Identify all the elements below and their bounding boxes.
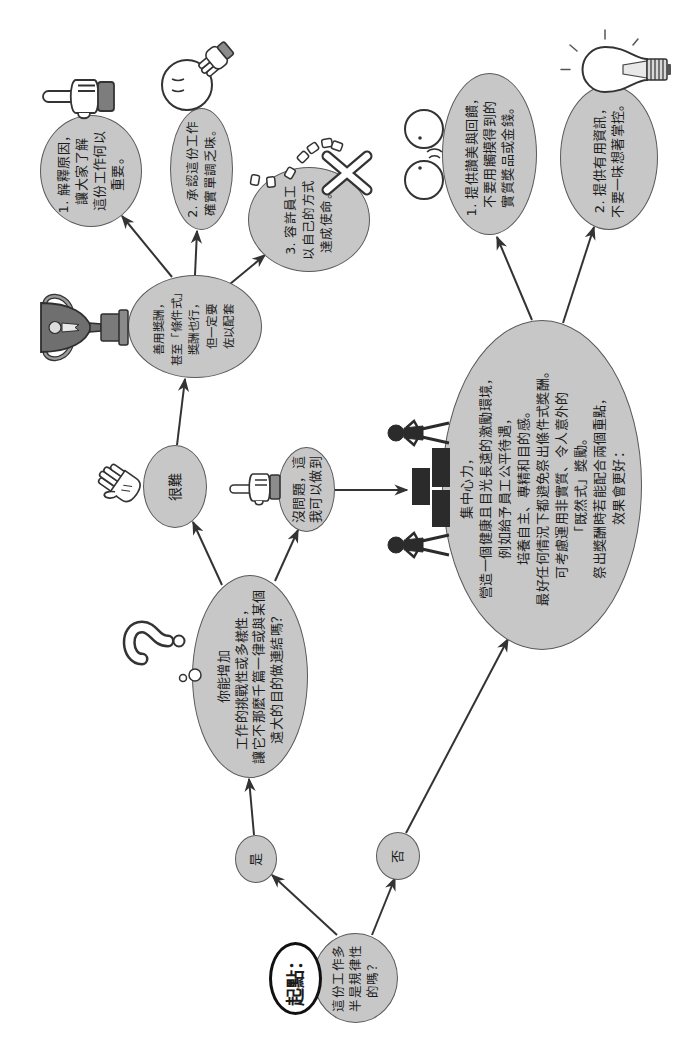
- start-badge: 起點：: [269, 942, 322, 1015]
- pointing-hand-icon: [227, 463, 283, 512]
- text-line: 這份工作多: [330, 945, 347, 1012]
- tip-information-text: 2. 提供有用資訊， 不要一味想著掌控。: [591, 97, 627, 218]
- answer-hard-node: 很難: [143, 445, 207, 528]
- text-line: 這份工作何以: [91, 131, 109, 211]
- text-line: 你能增加: [215, 650, 233, 704]
- answer-can-do-node: 沒問題，這 我可以做到: [278, 447, 335, 532]
- arrow-hard-to-rewards: [177, 379, 185, 445]
- person-icon: [388, 421, 449, 445]
- focus-environment-node: 集中心力， 營造一個健康且目光長遠的激勵環境， 例如給予員工公平待遇， 培養自主…: [442, 320, 642, 650]
- text-line: 培養自主、專精和目的感。: [514, 405, 533, 566]
- arrow-question-to-can-do: [275, 530, 298, 581]
- tip-praise-text: 1. 提供讚美與回饋， 不要用觸摸得到的 實質獎品或金錢。: [463, 92, 517, 217]
- branch-yes-text: 是: [247, 852, 265, 865]
- flowchart-canvas: 這份工作多 半是規律性 的嗎？ 起點： 是 否 你能增加 工作的挑戰性或多樣性，…: [0, 0, 692, 1047]
- text-line: 2. 提供有用資訊，: [591, 102, 609, 214]
- start-question-node: 這份工作多 半是規律性 的嗎？: [313, 933, 398, 1023]
- text-line: 集中心力，: [457, 452, 476, 519]
- talking-faces-icon: [400, 107, 446, 202]
- branch-yes-node: 是: [235, 835, 277, 883]
- text-line: 獎酬也行，: [186, 298, 204, 355]
- text-line: 讓它不那麼千篇一律或與某個: [250, 589, 268, 763]
- text-line: 可考慮運用非實質、令人意外的: [552, 391, 571, 579]
- text-line: 「既然式」獎勵。: [571, 431, 590, 538]
- text-line: 是: [247, 852, 265, 865]
- people-podium-icon: [385, 412, 453, 562]
- start-question-text: 這份工作多 半是規律性 的嗎？: [330, 945, 381, 1012]
- text-line: 佐以配套: [221, 304, 239, 350]
- arrow-yes-to-question: [249, 779, 254, 835]
- tip-acknowledge-text: 2. 承認這份工作 確實單調乏味。: [184, 120, 220, 218]
- trophy-icon: [35, 292, 130, 363]
- tip-praise-node: 1. 提供讚美與回饋， 不要用觸摸得到的 實質獎品或金錢。: [442, 73, 537, 235]
- lightbulb-icon: [555, 22, 675, 97]
- arrow-start-to-yes: [272, 875, 337, 935]
- text-line: 遠大的目的做連結嗎？: [268, 610, 286, 744]
- branch-no-text: 否: [389, 849, 407, 862]
- text-line: 祭出獎酬時若能配合兩個重點，: [590, 391, 609, 579]
- tip-acknowledge-node: 2. 承認這份工作 確實單調乏味。: [170, 108, 233, 230]
- text-line: 但一定要: [204, 304, 222, 350]
- thought-bubbles-icon: [176, 663, 204, 689]
- podium-icon: [412, 448, 450, 527]
- arrow-start-to-no: [372, 878, 395, 935]
- text-line: 實質獎品或金錢。: [499, 100, 517, 207]
- arrow-no-to-focus: [406, 639, 508, 833]
- open-hand-icon: [95, 458, 145, 508]
- text-line: 營造一個健康且目光長遠的激勵環境，: [476, 371, 495, 599]
- text-line: 我可以做到: [307, 456, 324, 523]
- challenge-question-text: 你能增加 工作的挑戰性或多樣性， 讓它不那麼千篇一律或與某個 遠大的目的做連結嗎…: [215, 589, 285, 763]
- question-mark-icon: [122, 611, 186, 671]
- flowchart-page: 這份工作多 半是規律性 的嗎？ 起點： 是 否 你能增加 工作的挑戰性或多樣性，…: [0, 0, 692, 1047]
- text-line: 不要用觸摸得到的: [481, 100, 499, 207]
- arrow-rewards-to-explain: [122, 216, 172, 277]
- text-line: 1. 提供讚美與回饋，: [463, 92, 481, 217]
- text-line: 否: [389, 849, 407, 862]
- answer-hard-text: 很難: [166, 472, 184, 501]
- text-line: 沒問題，這: [290, 456, 307, 523]
- rewards-text: 善用獎酬， 甚至「條件式」 獎酬也行， 但一定要 佐以配套: [151, 287, 239, 367]
- text-line: 半是規律性: [347, 945, 364, 1012]
- tip-information-node: 2. 提供有用資訊， 不要一味想著掌控。: [560, 85, 658, 230]
- arrow-question-to-hard: [193, 522, 222, 585]
- text-line: 不要一味想著掌控。: [609, 97, 627, 218]
- person-icon: [388, 533, 449, 557]
- text-line: 起點：: [287, 952, 305, 1006]
- tip-explain-node: 1. 解釋原因， 讓大家了解 這份工作何以 重要。: [40, 115, 142, 227]
- arrow-focus-to-information: [563, 227, 594, 323]
- text-line: 確實單調乏味。: [202, 122, 220, 216]
- branch-no-node: 否: [376, 832, 420, 880]
- rewards-node: 善用獎酬， 甚至「條件式」 獎酬也行， 但一定要 佐以配套: [128, 275, 262, 378]
- text-line: 善用獎酬，: [151, 298, 169, 355]
- text-line: 很難: [166, 472, 184, 501]
- pointing-finger-icon: [40, 72, 118, 122]
- focus-environment-text: 集中心力， 營造一個健康且目光長遠的激勵環境， 例如給予員工公平待遇， 培養自主…: [457, 364, 628, 605]
- tip-explain-text: 1. 解釋原因， 讓大家了解 這份工作何以 重要。: [55, 129, 127, 214]
- text-line: 1. 解釋原因，: [55, 129, 73, 214]
- text-line: 2. 承認這份工作: [184, 120, 202, 218]
- text-line: 的嗎？: [364, 958, 381, 998]
- broken-chain-x-icon: [245, 132, 375, 202]
- text-line: 讓大家了解: [73, 138, 91, 205]
- start-badge-label: 起點：: [287, 952, 305, 1006]
- text-line: 甚至「條件式」: [169, 287, 187, 367]
- text-line: 最好任何情況下都避免祭出條件式獎酬。: [533, 364, 552, 605]
- text-line: 例如給予員工公平待遇，: [495, 411, 514, 558]
- arrow-focus-to-praise: [497, 237, 532, 320]
- text-line: 工作的挑戰性或多樣性，: [233, 603, 251, 750]
- challenge-question-node: 你能增加 工作的挑戰性或多樣性， 讓它不那麼千篇一律或與某個 遠大的目的做連結嗎…: [192, 575, 308, 778]
- thinking-face-icon: [158, 40, 238, 112]
- text-line: 效果會更好：: [609, 445, 628, 525]
- arrow-rewards-to-autonomy: [230, 255, 265, 284]
- answer-can-do-text: 沒問題，這 我可以做到: [290, 456, 324, 523]
- text-line: 重要。: [109, 151, 127, 191]
- arrow-rewards-to-acknowledge: [195, 231, 197, 275]
